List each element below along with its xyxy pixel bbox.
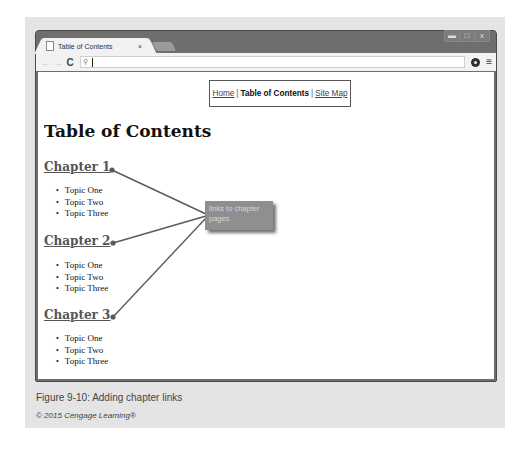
page-icon <box>46 41 54 51</box>
back-arrow-icon[interactable]: ← <box>40 57 52 68</box>
list-item: Topic One <box>56 185 108 197</box>
nav-current-page: Table of Contents <box>241 89 310 98</box>
close-window-button[interactable]: x <box>474 30 489 41</box>
extension-icon[interactable] <box>471 58 480 67</box>
chapter-3-link[interactable]: Chapter 3 <box>44 308 110 322</box>
list-item: Topic Two <box>56 272 108 284</box>
chapter-2-link[interactable]: Chapter 2 <box>44 234 110 248</box>
tab-table-of-contents[interactable]: Table of Contents × <box>42 38 146 54</box>
search-icon: ⚲ <box>83 58 88 66</box>
callout-label: links to chapter pages <box>205 201 273 230</box>
nav-separator: | <box>236 89 238 98</box>
minimize-button[interactable]: ▬ <box>445 30 459 41</box>
figure-caption: Figure 9-10: Adding chapter links <box>36 392 182 403</box>
list-item: Topic Two <box>56 197 108 209</box>
new-tab-button[interactable] <box>152 42 176 51</box>
site-nav: Home | Table of Contents | Site Map <box>209 80 351 107</box>
list-item: Topic One <box>56 333 108 345</box>
reload-icon[interactable]: C <box>64 57 76 68</box>
nav-home-link[interactable]: Home <box>213 89 235 98</box>
list-item: Topic Three <box>56 356 108 368</box>
chapter-1-link[interactable]: Chapter 1 <box>44 160 110 174</box>
address-bar[interactable]: ⚲ <box>80 56 465 68</box>
page-title: Table of Contents <box>44 121 211 141</box>
list-item: Topic One <box>56 260 108 272</box>
list-item: Topic Three <box>56 208 108 220</box>
nav-sitemap-link[interactable]: Site Map <box>315 89 347 98</box>
list-item: Topic Three <box>56 283 108 295</box>
tab-title: Table of Contents <box>58 43 138 50</box>
chapter-3-topics: Topic One Topic Two Topic Three <box>56 333 108 368</box>
list-item: Topic Two <box>56 345 108 357</box>
nav-separator: | <box>311 89 313 98</box>
chapter-1-topics: Topic One Topic Two Topic Three <box>56 185 108 220</box>
menu-icon[interactable]: ≡ <box>486 57 492 67</box>
forward-arrow-icon[interactable]: → <box>52 57 64 68</box>
maximize-button[interactable]: □ <box>459 30 474 41</box>
chapter-2-topics: Topic One Topic Two Topic Three <box>56 260 108 295</box>
figure-copyright: © 2015 Cengage Learning® <box>36 411 136 420</box>
text-cursor <box>92 58 93 67</box>
browser-toolbar: ← → C ⚲ ≡ <box>36 53 496 71</box>
window-controls: ▬ □ x <box>444 30 490 42</box>
tab-close-icon[interactable]: × <box>138 43 142 50</box>
